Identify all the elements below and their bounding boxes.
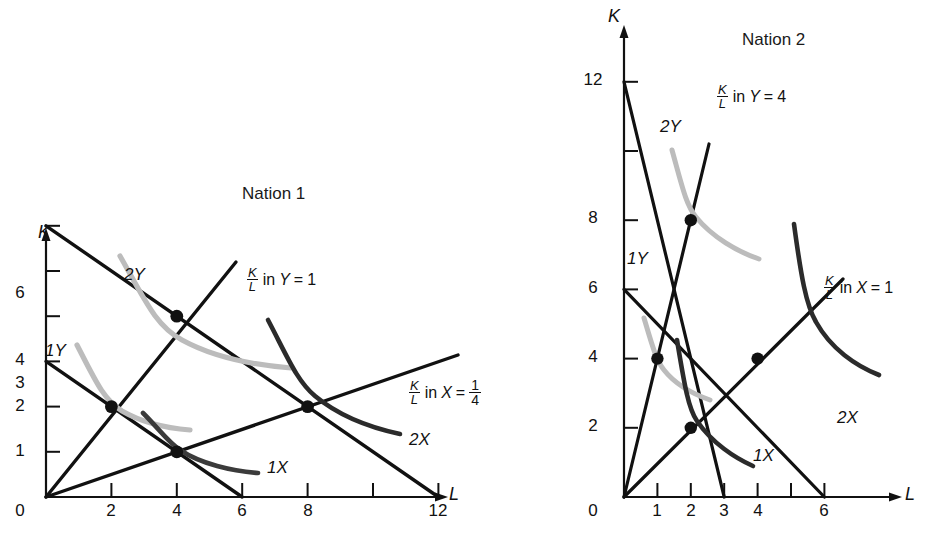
nation1-y-tick-3: 3 [8,373,32,393]
nation1-raylabel-KL-in-X: KL in X = 1 4 [408,378,481,407]
nation1-y-tick-2: 2 [8,396,32,416]
nation2-raylabel-X-value: 1 [884,279,893,297]
nation2-y-tick-4: 4 [576,347,610,367]
nation1-raylabel-Y-eq: = [294,271,303,289]
nation1-panel: Nation 1 K L [0,0,560,546]
nation2-x-ticks [657,483,824,497]
nation1-raylabel-KL-in-Y: KL in Y = 1 [246,266,316,293]
nation2-y-tick-6: 6 [576,278,610,298]
nation2-y-tick-8: 8 [576,208,610,228]
nation1-x-tick-8: 8 [296,501,320,521]
nation1-raylabel-X-den: 4 [469,392,481,407]
nation2-raylabel-KL-in-X: KL in X = 1 [823,274,893,301]
nation2-raylabel-X-prefix: in [840,279,852,297]
nation1-x-ticks [111,483,438,497]
nation2-y-tick-12: 12 [576,70,610,90]
nation2-raylabel-Y-eq: = [764,88,773,106]
nation2-plot [560,0,934,546]
kl-fraction-icon: KL [716,83,729,110]
nation2-raylabel-Y-good: Y [749,88,760,106]
nation2-label-2X: 2X [837,408,858,428]
nation2-x-tick-3: 3 [712,501,736,521]
nation1-y-tick-6: 6 [8,283,32,303]
nation2-label-1Y: 1Y [627,249,648,269]
nation1-rays [46,262,458,497]
one-quarter-fraction: 1 4 [469,378,481,407]
nation2-label-2Y: 2Y [660,117,681,137]
nation1-x-tick-6: 6 [230,501,254,521]
nation2-raylabel-KL-in-Y: KL in Y = 4 [716,83,786,110]
nation1-label-2Y: 2Y [124,265,145,285]
nation2-x-tick-1: 1 [645,501,669,521]
nation2-y-tick-0: 0 [576,501,610,521]
kl-fraction-icon: KL [246,266,259,293]
nation2-ray-KL-in-Y [624,144,709,497]
nation2-rays [624,144,843,497]
nation2-x-tick-6: 6 [812,501,836,521]
nation1-raylabel-X-eq: = [456,384,465,402]
nation2-raylabel-X-eq: = [871,279,880,297]
nation2-isocost-lines [624,82,824,497]
nation1-y-tick-0: 0 [8,501,32,521]
nation2-x-tick-4: 4 [746,501,770,521]
nation2-raylabel-Y-value: 4 [777,88,786,106]
kl-fraction-icon: KL [823,274,836,301]
nation2-raylabel-X-good: X [856,279,867,297]
nation2-label-1X: 1X [753,446,774,466]
nation1-raylabel-X-num: 1 [469,378,481,392]
nation2-isoquant-1X [677,340,753,466]
nation2-raylabel-Y-prefix: in [733,88,745,106]
nation1-x-tick-12: 12 [426,501,450,521]
nation1-x-tick-2: 2 [99,501,123,521]
nation1-raylabel-Y-good: Y [279,271,290,289]
nation1-y-ticks [46,226,60,452]
nation1-raylabel-Y-prefix: in [263,271,275,289]
nation2-panel: Nation 2 K L [560,0,934,546]
nation2-x-tick-2: 2 [679,501,703,521]
nation1-raylabel-X-good: X [441,384,452,402]
nation1-isoquant-2X [268,320,400,434]
nation1-ray-KL-in-X [46,355,458,497]
nation2-y-tick-2: 2 [576,416,610,436]
nation1-label-2X: 2X [409,430,430,450]
nation1-y-tick-1: 1 [8,441,32,461]
nation1-raylabel-X-prefix: in [425,384,437,402]
nation1-raylabel-Y-value: 1 [307,271,316,289]
nation1-label-1X: 1X [267,458,288,478]
kl-fraction-icon: KL [408,379,421,406]
nation1-label-1Y: 1Y [45,341,66,361]
nation1-x-tick-4: 4 [165,501,189,521]
nation1-y-tick-4: 4 [8,350,32,370]
